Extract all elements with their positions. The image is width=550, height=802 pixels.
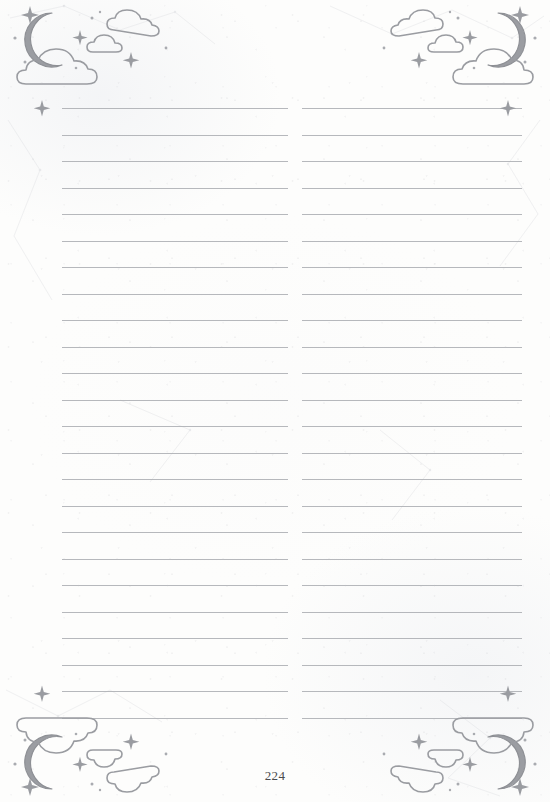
writing-line-left-11 [62, 373, 288, 374]
decoration-top-left [0, 0, 190, 140]
cloud-large-icon [17, 49, 97, 84]
writing-line-right-4 [302, 188, 522, 189]
writing-line-right-21 [302, 638, 522, 639]
notebook-page: 224 [0, 0, 550, 802]
stars [383, 11, 537, 69]
writing-line-left-13 [62, 426, 288, 427]
writing-line-left-15 [62, 479, 288, 480]
cloud-small-icon [87, 35, 122, 52]
writing-line-left-19 [62, 585, 288, 586]
cloud-small-icon [87, 750, 122, 767]
writing-line-right-17 [302, 532, 522, 533]
cloud-large-icon [453, 718, 533, 753]
writing-line-right-11 [302, 373, 522, 374]
cloud-large-icon [17, 718, 97, 753]
cloud-wide-icon [107, 10, 159, 36]
writing-line-right-15 [302, 479, 522, 480]
writing-line-right-19 [302, 585, 522, 586]
writing-line-left-22 [62, 665, 288, 666]
writing-line-left-1 [62, 108, 288, 109]
writing-line-left-23 [62, 691, 288, 692]
paper-texture [0, 0, 550, 802]
paper-wash [0, 0, 550, 802]
cloud-large-icon [453, 49, 533, 84]
writing-line-right-3 [302, 161, 522, 162]
writing-line-left-20 [62, 612, 288, 613]
writing-line-left-6 [62, 241, 288, 242]
writing-line-right-10 [302, 347, 522, 348]
writing-line-right-20 [302, 612, 522, 613]
writing-line-right-24 [302, 718, 522, 719]
ruled-lines [0, 0, 550, 802]
constellation-linework [0, 0, 550, 802]
writing-line-left-21 [62, 638, 288, 639]
cloud-small-icon [428, 750, 463, 767]
writing-line-left-12 [62, 400, 288, 401]
writing-line-right-9 [302, 320, 522, 321]
writing-line-right-13 [302, 426, 522, 427]
writing-line-right-14 [302, 453, 522, 454]
writing-line-right-5 [302, 214, 522, 215]
writing-line-left-9 [62, 320, 288, 321]
writing-line-left-14 [62, 453, 288, 454]
writing-line-left-24 [62, 718, 288, 719]
writing-line-right-2 [302, 135, 522, 136]
writing-line-right-12 [302, 400, 522, 401]
writing-line-right-6 [302, 241, 522, 242]
writing-line-right-8 [302, 294, 522, 295]
writing-line-left-5 [62, 214, 288, 215]
crescent-moon-icon [25, 13, 62, 67]
cloud-wide-icon [391, 10, 443, 36]
stars [13, 11, 167, 69]
writing-line-right-16 [302, 506, 522, 507]
writing-line-left-17 [62, 532, 288, 533]
writing-line-left-7 [62, 267, 288, 268]
sparkles [21, 6, 139, 117]
sparkles [411, 6, 529, 117]
writing-line-right-22 [302, 665, 522, 666]
cloud-small-icon [428, 35, 463, 52]
writing-line-right-23 [302, 691, 522, 692]
writing-line-left-3 [62, 161, 288, 162]
writing-line-right-18 [302, 559, 522, 560]
crescent-moon-icon [488, 13, 525, 67]
page-number: 224 [0, 768, 550, 784]
writing-line-left-10 [62, 347, 288, 348]
writing-line-left-16 [62, 506, 288, 507]
writing-line-right-7 [302, 267, 522, 268]
writing-line-left-8 [62, 294, 288, 295]
writing-line-left-2 [62, 135, 288, 136]
writing-line-right-1 [302, 108, 522, 109]
decoration-top-right [360, 0, 550, 140]
writing-line-left-18 [62, 559, 288, 560]
writing-line-left-4 [62, 188, 288, 189]
